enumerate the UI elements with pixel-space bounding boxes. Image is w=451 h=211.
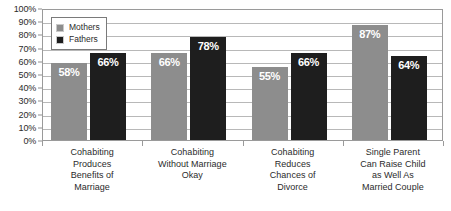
bar-fathers[interactable]: 78% <box>190 37 226 140</box>
legend-swatch-icon <box>56 36 64 44</box>
bar-value-label: 87% <box>352 28 388 40</box>
category-label-line: Benefits of <box>42 170 142 182</box>
category-label-line: Single Parent <box>343 147 443 159</box>
bar-mothers[interactable]: 87% <box>352 25 388 140</box>
x-axis-tick-mark <box>42 141 43 146</box>
category-label-line: Divorce <box>243 182 343 194</box>
y-axis-tick-label: 10% <box>19 123 36 132</box>
y-axis-tick-label: 40% <box>19 84 36 93</box>
x-axis-tick-mark <box>142 141 143 146</box>
y-axis-tick-label: 0% <box>23 137 36 146</box>
y-axis-tick-label: 30% <box>19 97 36 106</box>
category-label-line: Reduces <box>243 159 343 171</box>
bar-value-label: 66% <box>90 56 126 68</box>
legend-swatch-icon <box>56 24 64 32</box>
category-label-line: Okay <box>142 170 242 182</box>
y-axis-tick-label: 100% <box>14 5 36 14</box>
x-axis-tick-mark <box>243 141 244 146</box>
x-axis-tick-mark <box>443 141 444 146</box>
category-label-line: Chances of <box>243 170 343 182</box>
y-axis-tick-label: 20% <box>19 110 36 119</box>
bar-value-label: 78% <box>190 40 226 52</box>
category-label-line: as Well As <box>343 170 443 182</box>
bar-fathers[interactable]: 66% <box>90 53 126 140</box>
bar-value-label: 58% <box>51 66 87 78</box>
legend-label: Fathers <box>69 35 98 44</box>
category-label: CohabitingWithout MarriageOkay <box>142 147 242 182</box>
legend-item[interactable]: Fathers <box>56 34 100 45</box>
category-label-line: Without Marriage <box>142 159 242 171</box>
y-axis-tick-label: 50% <box>19 71 36 80</box>
category-label-line: Cohabiting <box>42 147 142 159</box>
bar-value-label: 66% <box>291 56 327 68</box>
bar-value-label: 55% <box>252 70 288 82</box>
category-label-line: Marriage <box>42 182 142 194</box>
category-label-line: Cohabiting <box>243 147 343 159</box>
category-label-line: Married Couple <box>343 182 443 194</box>
y-axis-tick-label: 80% <box>19 31 36 40</box>
x-axis-tick-mark <box>343 141 344 146</box>
y-axis-tick-label: 60% <box>19 57 36 66</box>
plot-area: 58%66%66%78%55%66%87%64% MothersFathers <box>42 9 443 141</box>
y-axis-tick-label: 90% <box>19 18 36 27</box>
x-axis-category-labels: CohabitingProducesBenefits ofMarriageCoh… <box>42 147 443 209</box>
bar-value-label: 64% <box>391 59 427 71</box>
category-label-line: Cohabiting <box>142 147 242 159</box>
bar-fathers[interactable]: 66% <box>291 53 327 140</box>
bar-group: 87%64% <box>344 10 444 140</box>
bar-group: 55%66% <box>244 10 344 140</box>
legend-label: Mothers <box>69 23 100 32</box>
category-label: CohabitingProducesBenefits ofMarriage <box>42 147 142 193</box>
category-label: Single ParentCan Raise Childas Well AsMa… <box>343 147 443 193</box>
y-axis-tick-label: 70% <box>19 44 36 53</box>
bar-fathers[interactable]: 64% <box>391 56 427 140</box>
chart-legend: MothersFathers <box>51 17 107 50</box>
category-label-line: Can Raise Child <box>343 159 443 171</box>
legend-item[interactable]: Mothers <box>56 22 100 33</box>
bar-mothers[interactable]: 58% <box>51 63 87 140</box>
bar-chart: 0%10%20%30%40%50%60%70%80%90%100% 58%66%… <box>0 0 451 211</box>
bar-value-label: 66% <box>151 56 187 68</box>
y-axis: 0%10%20%30%40%50%60%70%80%90%100% <box>0 9 40 141</box>
category-label: CohabitingReducesChances ofDivorce <box>243 147 343 193</box>
category-label-line: Produces <box>42 159 142 171</box>
bar-mothers[interactable]: 66% <box>151 53 187 140</box>
bar-group: 66%78% <box>143 10 243 140</box>
bar-mothers[interactable]: 55% <box>252 67 288 140</box>
